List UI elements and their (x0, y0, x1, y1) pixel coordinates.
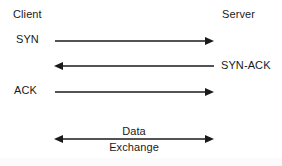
message-label-ack: ACK (14, 85, 37, 96)
message-label-data: Data (54, 126, 214, 137)
arrow-syn-ack (54, 62, 214, 70)
arrow-syn (55, 37, 214, 45)
participant-label-client: Client (13, 9, 42, 20)
bottom-edge-band (0, 158, 282, 166)
sequence-diagram: Client Server SYN SYN-ACK ACK Data Excha… (0, 0, 282, 166)
message-label-syn: SYN (16, 34, 39, 45)
participant-label-server: Server (222, 9, 255, 20)
message-label-exchange: Exchange (54, 142, 214, 153)
message-label-syn-ack: SYN-ACK (221, 60, 271, 71)
arrow-ack (55, 88, 214, 96)
